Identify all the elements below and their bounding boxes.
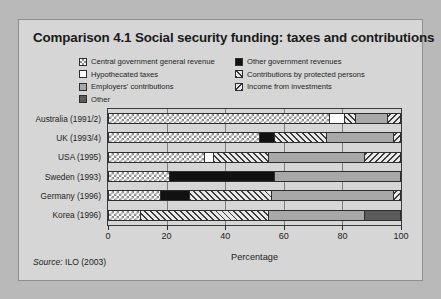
x-axis-tick-label: 20 (162, 231, 172, 241)
stacked-bar[interactable] (108, 210, 401, 221)
source-value: ILO (2003) (63, 257, 106, 267)
legend-label: Contributions by protected persons (247, 70, 365, 79)
stacked-bar[interactable] (108, 152, 401, 163)
x-axis-tick (401, 226, 402, 230)
bar-row (108, 148, 401, 167)
bar-segment (109, 153, 205, 162)
bar-segment (109, 211, 141, 220)
x-axis: 020406080100 (107, 226, 402, 252)
bar-segment (365, 153, 400, 162)
bar-segment (205, 153, 214, 162)
legend-swatch-employers-contributions (79, 83, 87, 91)
legend-label: Other government revenues (247, 57, 342, 66)
legend-swatch-hypothecated-taxes (79, 70, 87, 78)
legend-swatch-other-government-revenues (235, 58, 243, 66)
legend-swatch-other (79, 95, 87, 103)
legend-label: Other (91, 95, 110, 104)
y-axis-label: USA (1995) (58, 152, 101, 162)
bar-segment (161, 191, 190, 200)
bar-segment (214, 153, 269, 162)
legend-item-right-2: Income from investments (235, 81, 365, 92)
figure-panel: Comparison 4.1 Social security funding: … (18, 19, 423, 281)
y-axis-label: Australia (1991/2) (36, 114, 102, 124)
x-axis-tick (225, 226, 226, 230)
legend-column-right: Other government revenuesContributions b… (235, 56, 365, 93)
x-axis-tick (167, 226, 168, 230)
bar-segment (330, 114, 345, 123)
y-axis-label: UK (1993/4) (56, 133, 101, 143)
bar-segment (272, 191, 394, 200)
legend-item-left-0: Central government general revenue (79, 56, 215, 67)
bar-segment (275, 172, 400, 181)
bar-row (108, 109, 401, 128)
legend-label: Employers' contributions (91, 82, 174, 91)
bar-segment (109, 172, 170, 181)
x-axis-tick-label: 40 (220, 231, 230, 241)
bar-row (108, 128, 401, 147)
plot-wrapper: Australia (1991/2)UK (1993/4)USA (1995)S… (19, 108, 424, 248)
bar-segment (109, 191, 161, 200)
legend-item-left-1: Hypothecated taxes (79, 68, 215, 79)
y-axis-labels: Australia (1991/2)UK (1993/4)USA (1995)S… (19, 108, 105, 226)
bar-segment (170, 172, 275, 181)
bar-segment (269, 211, 365, 220)
bar-segment (394, 191, 400, 200)
figure-title: Comparison 4.1 Social security funding: … (33, 30, 434, 45)
stacked-bar[interactable] (108, 171, 401, 182)
legend-item-left-2: Employers' contributions (79, 81, 215, 92)
bar-segment (388, 114, 400, 123)
legend-label: Hypothecated taxes (91, 70, 158, 79)
chart-legend: Central government general revenueHypoth… (79, 56, 409, 104)
x-axis-tick (284, 226, 285, 230)
bar-segment (345, 114, 357, 123)
bar-segment (275, 133, 327, 142)
bar-segment (190, 191, 271, 200)
stacked-bar[interactable] (108, 190, 401, 201)
legend-swatch-income-from-investments (235, 83, 243, 91)
bar-segment (365, 211, 400, 220)
x-axis-tick-label: 60 (279, 231, 289, 241)
bar-segment (394, 133, 400, 142)
bar-segment (260, 133, 275, 142)
x-axis-tick-label: 80 (337, 231, 347, 241)
x-axis-tick (108, 226, 109, 230)
legend-label: Income from investments (247, 82, 332, 91)
x-axis-tick (342, 226, 343, 230)
bar-segment (327, 133, 394, 142)
x-axis-tick-label: 100 (393, 231, 408, 241)
x-axis-tick-label: 0 (105, 231, 110, 241)
legend-swatch-central-government-general-revenue (79, 58, 87, 66)
legend-item-right-1: Contributions by protected persons (235, 68, 365, 79)
legend-swatch-contributions-by-protected-persons (235, 70, 243, 78)
y-axis-label: Sweden (1993) (45, 172, 101, 182)
y-axis-label: Germany (1996) (41, 191, 101, 201)
bar-row (108, 167, 401, 186)
bar-row (108, 186, 401, 205)
source-caption: Source: ILO (2003) (33, 257, 106, 267)
plot-area (107, 108, 402, 226)
bar-row (108, 206, 401, 225)
bar-segment (109, 114, 330, 123)
source-label: Source: (33, 257, 63, 267)
legend-label: Central government general revenue (91, 57, 215, 66)
y-axis-label: Korea (1996) (53, 210, 101, 220)
bar-segment (141, 211, 269, 220)
bar-segment (109, 133, 260, 142)
stacked-bar[interactable] (108, 113, 401, 124)
bar-segment (269, 153, 365, 162)
legend-item-right-0: Other government revenues (235, 56, 365, 67)
legend-column-left: Central government general revenueHypoth… (79, 56, 215, 106)
bar-segment (356, 114, 388, 123)
x-axis-title: Percentage (107, 252, 402, 262)
stacked-bar[interactable] (108, 132, 401, 143)
legend-item-left-3: Other (79, 93, 215, 104)
